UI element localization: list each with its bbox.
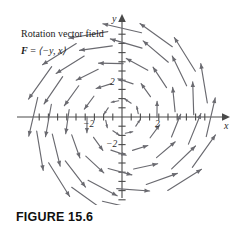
vector-arrow-head [99,61,104,65]
field-annotation: Rotation vector field F = ⟨−y, x⟩ [21,27,141,58]
vector-arrow-head [96,85,101,89]
vector-arrow-shaft [102,201,141,205]
vector-arrow-head [143,145,148,149]
vector-arrow-head [172,173,178,177]
figure-caption: FIGURE 15.6 [16,210,93,224]
y-tick-label-positive-2: 2 [110,78,115,88]
vector-arrow-head [153,67,158,73]
vector-arrow-head [64,128,68,133]
y-tick-label-negative-2: −2 [106,140,117,150]
vector-arrow-head [199,64,203,69]
y-axis-arrowhead [118,14,126,22]
annotation-formula: F = ⟨−y, x⟩ [21,44,141,59]
x-tick-label-positive-2: 2 [155,120,160,130]
vector-arrow-shaft [201,64,208,103]
vector-arrow-shaft [37,131,44,170]
vector-symbol: F [21,45,28,56]
vector-field-plot: x y −2 2 2 −2 Rotation vector field F = … [0,0,236,205]
vector-arrow-head [29,94,34,100]
vector-arrow-head [191,82,195,87]
vector-arrow-shaft [192,135,215,167]
vector-arrow-head [76,152,80,158]
vector-arrow-shaft [29,67,52,99]
vector-arrow-head [144,188,149,192]
figure-container: x y −2 2 2 −2 Rotation vector field F = … [0,0,236,232]
vector-arrow-head [155,101,159,106]
vector-arrow-shaft [168,169,202,190]
vector-arrow-head [64,100,69,106]
formula-equals: = [28,45,39,56]
vector-arrow-shaft [72,187,104,205]
vector-arrow-head [40,165,44,170]
y-axis-label: y [112,14,116,24]
formula-components: ⟨−y, x⟩ [38,45,66,56]
vector-arrow-head [44,131,48,137]
vector-arrow-shaft [49,163,70,197]
x-tick-label-negative-2: −2 [83,120,94,130]
vector-arrow-head [44,98,49,104]
vector-arrow-head [197,114,201,120]
vector-arrow-head [211,135,216,141]
x-axis-label: x [224,121,228,131]
annotation-title: Rotation vector field [21,27,141,42]
